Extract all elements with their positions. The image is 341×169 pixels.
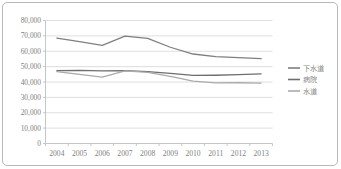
y-axis-tick-label: 70,000 xyxy=(21,31,42,40)
x-axis-tick-label: 2012 xyxy=(231,149,246,158)
x-axis-tick-label: 2005 xyxy=(72,149,87,158)
y-axis-tick-label: 60,000 xyxy=(21,47,42,56)
x-axis-tick-label: 2007 xyxy=(117,149,132,158)
y-axis-tick-label: 0 xyxy=(37,139,41,148)
chart-legend: 下水道病院水道 xyxy=(288,64,324,96)
x-axis-tick-labels: 2004200520062007200820092010201120122013 xyxy=(49,149,269,158)
x-axis-tick-label: 2004 xyxy=(49,149,64,158)
y-axis-tick-label: 10,000 xyxy=(21,124,42,133)
x-axis-tick-label: 2009 xyxy=(163,149,178,158)
y-axis-tick-label: 80,000 xyxy=(21,16,42,25)
legend-label: 病院 xyxy=(303,75,317,84)
x-axis-tick-label: 2011 xyxy=(208,149,223,158)
y-axis-tick-labels: 010,00020,00030,00040,00050,00060,00070,… xyxy=(21,16,42,148)
series-line xyxy=(57,36,261,58)
y-axis-tick-label: 50,000 xyxy=(21,62,42,71)
x-axis-tick-label: 2010 xyxy=(185,149,200,158)
plot-area-wrapper: 010,00020,00030,00040,00050,00060,00070,… xyxy=(0,0,341,169)
x-axis-tick-label: 2008 xyxy=(140,149,155,158)
chart-figure: 010,00020,00030,00040,00050,00060,00070,… xyxy=(0,0,341,169)
data-series-lines xyxy=(57,36,261,83)
x-axis-tick-label: 2006 xyxy=(95,149,110,158)
y-axis-tick-label: 40,000 xyxy=(21,78,42,87)
y-axis-tick-label: 20,000 xyxy=(21,108,42,117)
y-axis-tick-label: 30,000 xyxy=(21,93,42,102)
legend-label: 水道 xyxy=(303,87,317,96)
legend-label: 下水道 xyxy=(303,64,324,73)
line-chart: 010,00020,00030,00040,00050,00060,00070,… xyxy=(0,0,341,169)
x-axis-tick-label: 2013 xyxy=(254,149,269,158)
